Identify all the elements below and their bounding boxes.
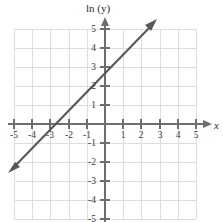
x-axis-arrow-icon [203, 120, 212, 128]
x-tick-label-2: 2 [135, 131, 147, 141]
y-tick-label-4: 4 [82, 44, 96, 54]
coordinate-plane [0, 0, 223, 222]
y-tick-label--1: -1 [79, 139, 96, 149]
y-tick-label-2: 2 [82, 82, 96, 92]
y-tick-label--5: -5 [79, 215, 96, 222]
x-tick-label--5: -5 [6, 131, 22, 141]
x-tick-label-1: 1 [117, 131, 129, 141]
plotted-line-series [8, 19, 157, 173]
y-tick-label--2: -2 [79, 158, 96, 168]
x-tick-label-4: 4 [172, 131, 184, 141]
y-tick-label--4: -4 [79, 196, 96, 206]
y-tick-label-3: 3 [82, 63, 96, 73]
x-axis [8, 119, 212, 129]
x-tick-label--4: -4 [24, 131, 40, 141]
x-tick-label--2: -2 [61, 131, 77, 141]
x-tick-label--3: -3 [42, 131, 58, 141]
y-tick-label-5: 5 [82, 25, 96, 35]
x-axis-title: x [214, 120, 219, 131]
y-axis-arrow-icon [101, 17, 109, 26]
x-tick-label-3: 3 [154, 131, 166, 141]
y-tick-label-1: 1 [82, 101, 96, 111]
y-axis-title: ln (y) [86, 3, 110, 14]
y-tick-label--3: -3 [79, 177, 96, 187]
graph-figure: -5 -4 -3 -2 -1 1 2 3 4 5 5 4 3 2 1 -1 -2… [0, 0, 223, 222]
y-axis [100, 17, 110, 222]
x-tick-label-5: 5 [190, 131, 202, 141]
